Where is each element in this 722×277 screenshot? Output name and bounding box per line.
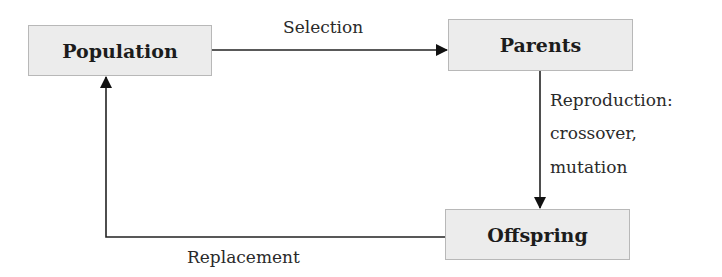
replacement-arrow bbox=[106, 77, 445, 237]
offspring-label: Offspring bbox=[487, 224, 587, 246]
reproduction-label-line3: mutation bbox=[550, 157, 628, 177]
replacement-label: Replacement bbox=[187, 247, 300, 267]
selection-label: Selection bbox=[283, 17, 363, 37]
reproduction-label-line2: crossover, bbox=[550, 123, 637, 143]
offspring-node: Offspring bbox=[445, 209, 630, 260]
population-label: Population bbox=[62, 40, 178, 62]
population-node: Population bbox=[28, 25, 212, 76]
parents-node: Parents bbox=[448, 19, 633, 71]
reproduction-label-line1: Reproduction: bbox=[550, 90, 673, 110]
parents-label: Parents bbox=[500, 34, 581, 56]
